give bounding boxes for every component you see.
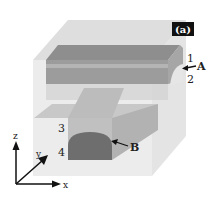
layer-label-1: 1 (187, 52, 194, 65)
slab-front-face (46, 60, 168, 84)
layer-label-3: 3 (58, 122, 65, 135)
pointer-label-a: A (196, 60, 206, 73)
slab-band (46, 64, 168, 68)
panel-label-text: (a) (175, 24, 191, 35)
pointer-label-b: B (130, 141, 139, 154)
x-axis-label: x (63, 180, 68, 190)
layer-label-4: 4 (58, 146, 65, 159)
waveguide-diagram: (a) 1 2 3 4 A B z y x (0, 0, 212, 204)
slab-top-face (46, 45, 180, 60)
z-axis-arrowhead (13, 141, 20, 150)
x-axis-arrowhead (52, 181, 61, 188)
z-axis-label: z (13, 131, 18, 141)
layer-label-2: 2 (187, 73, 194, 86)
branch-core-halfdisk (68, 132, 112, 160)
panel-label: (a) (172, 22, 194, 36)
y-axis-label: y (35, 149, 42, 159)
